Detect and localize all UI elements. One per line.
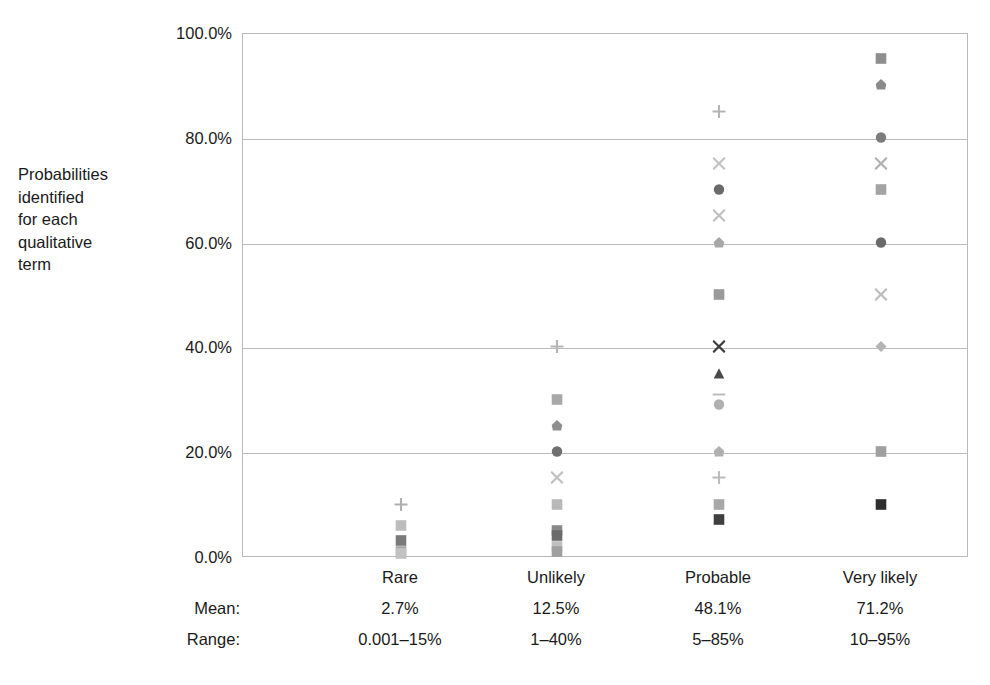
y-axis-tick-labels: 0.0%20.0%40.0%60.0%80.0%100.0% xyxy=(110,33,232,557)
data-point-marker xyxy=(713,366,726,384)
data-point-marker xyxy=(875,156,888,174)
data-point-marker xyxy=(875,51,888,69)
range-value: 10–95% xyxy=(785,624,975,655)
y-axis-tick-label: 60.0% xyxy=(112,233,232,252)
data-point-marker xyxy=(713,512,726,530)
data-point-marker xyxy=(875,235,888,253)
data-point-marker xyxy=(551,418,564,436)
summary-table: RareUnlikelyProbableVery likely Mean: 2.… xyxy=(0,562,990,655)
mean-row-label: Mean: xyxy=(0,593,240,624)
data-point-marker xyxy=(713,235,726,253)
data-point-marker xyxy=(875,182,888,200)
y-axis-tick-label: 20.0% xyxy=(112,443,232,462)
category-label: Very likely xyxy=(785,562,975,593)
range-row: Range: 0.001–15%1–40%5–85%10–95% xyxy=(0,624,990,655)
data-point-marker xyxy=(713,156,726,174)
data-point-marker xyxy=(875,77,888,95)
data-point-marker xyxy=(713,104,726,122)
data-point-marker xyxy=(395,497,408,515)
data-point-marker xyxy=(713,397,726,415)
data-point-marker xyxy=(713,182,726,200)
y-axis-tick-label: 40.0% xyxy=(112,338,232,357)
gridline xyxy=(243,244,967,245)
data-point-marker xyxy=(551,497,564,515)
data-point-marker xyxy=(551,444,564,462)
data-point-marker xyxy=(713,287,726,305)
data-point-marker xyxy=(713,444,726,462)
data-point-marker xyxy=(713,339,726,357)
data-point-marker xyxy=(551,392,564,410)
data-point-marker xyxy=(875,130,888,148)
gridline xyxy=(243,348,967,349)
plot-area xyxy=(242,33,968,557)
data-point-marker xyxy=(713,208,726,226)
data-point-marker xyxy=(875,497,888,515)
gridline xyxy=(243,139,967,140)
data-point-marker xyxy=(551,544,564,562)
y-axis-tick-label: 80.0% xyxy=(112,128,232,147)
range-row-label: Range: xyxy=(0,624,240,655)
gridline xyxy=(243,453,967,454)
data-point-marker xyxy=(713,470,726,488)
data-point-marker xyxy=(551,470,564,488)
data-point-marker xyxy=(875,339,888,357)
data-point-marker xyxy=(551,339,564,357)
mean-row: Mean: 2.7%12.5%48.1%71.2% xyxy=(0,593,990,624)
y-axis-tick-label: 100.0% xyxy=(112,24,232,43)
scatter-chart-figure: Probabilities identified for each qualit… xyxy=(0,0,990,685)
category-label-row: RareUnlikelyProbableVery likely xyxy=(0,562,990,593)
data-point-marker xyxy=(875,287,888,305)
data-point-marker xyxy=(875,444,888,462)
mean-value: 71.2% xyxy=(785,593,975,624)
